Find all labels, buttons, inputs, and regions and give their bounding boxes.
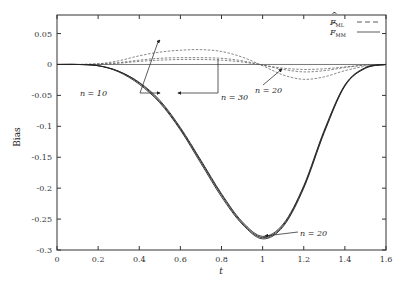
x-tick-label: 0.6 [174,255,187,264]
x-axis-label: t [219,266,223,276]
arrow-n20-bottom [265,232,298,236]
annotation-layer: n = 10n = 30n = 20n = 20 [80,40,327,238]
y-axis-label: Bias [12,127,22,147]
legend-hat-icon: ^ [331,10,338,19]
annotation-n20-bottom: n = 20 [300,229,327,238]
y-tick-label: -0.3 [37,246,52,255]
bias-line-chart: 0.050-0.05-0.1-0.15-0.2-0.25-0.3 00.20.4… [0,0,406,287]
x-tick-label: 0.4 [133,255,146,264]
y-tick-label: 0.05 [34,30,52,39]
series-layer [57,50,386,239]
y-tick-label: -0.1 [37,122,52,131]
annotation-n20-top: n = 20 [255,86,282,95]
plot-border [57,15,386,250]
y-tick-label: -0.25 [31,215,52,224]
y-axis: 0.050-0.05-0.1-0.15-0.2-0.25-0.3 [31,30,386,255]
leader-n10-ml [140,42,158,93]
legend-hat-icon: ^ [331,20,338,29]
annotation-n10: n = 10 [80,89,107,98]
y-tick-label: -0.05 [31,91,52,100]
x-tick-label: 1.2 [297,255,310,264]
x-axis: 00.20.40.60.811.21.41.6 [54,15,392,264]
y-tick-label: -0.15 [31,153,52,162]
x-tick-label: 0 [54,255,59,264]
x-tick-label: 1 [260,255,265,264]
y-tick-label: 0 [47,60,52,69]
legend: FML^FMM^ [329,10,380,38]
x-tick-label: 1.6 [380,255,393,264]
x-tick-label: 1.4 [339,255,352,264]
x-tick-label: 0.8 [215,255,228,264]
y-tick-label: -0.2 [37,184,52,193]
arrow-n20-top [263,69,282,85]
legend-label: FMM [329,28,346,38]
annotation-n30: n = 30 [221,93,248,102]
x-tick-label: 0.2 [92,255,105,264]
plot-frame [57,15,386,250]
arrow-n10-ml [158,40,160,42]
